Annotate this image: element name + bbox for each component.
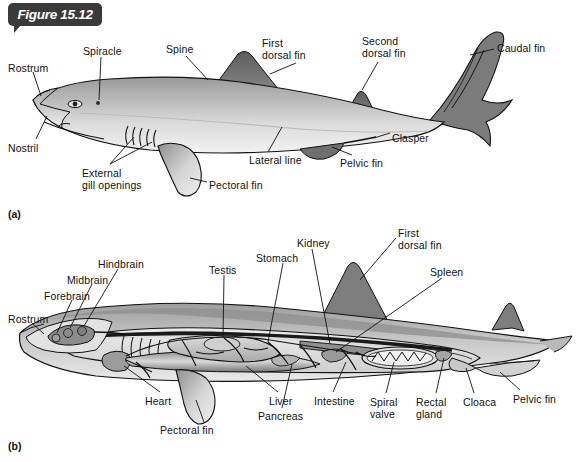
- midbrain-shape-b: [64, 329, 73, 338]
- label-kidney: Kidney: [297, 238, 330, 250]
- leader-rostrum-a: [33, 72, 41, 96]
- label-pelvic-fin: Pelvic fin: [340, 158, 383, 170]
- shark-anatomy-artwork: [0, 0, 576, 462]
- label-rostrum: Rostrum: [8, 63, 48, 75]
- figure-container: Figure 15.12 RostrumSpiracleSpineFirst d…: [0, 0, 576, 462]
- pupil-shape-a: [73, 102, 78, 107]
- label-lateral-line: Lateral line: [249, 155, 302, 167]
- label-pectoral-fin-b: Pectoral fin: [160, 425, 214, 437]
- label-hindbrain: Hindbrain: [98, 259, 144, 271]
- label-first-dorsal-b: First dorsal fin: [398, 228, 442, 251]
- label-heart: Heart: [145, 396, 171, 408]
- label-second-dorsal: Second dorsal fin: [362, 36, 406, 59]
- second-dorsal-fin-shape-b: [492, 303, 524, 331]
- label-rectal-gland: Rectal gland: [416, 397, 446, 420]
- label-spleen: Spleen: [430, 267, 463, 279]
- figure-number-tag: Figure 15.12: [8, 3, 102, 26]
- label-clasper: Clasper: [392, 133, 429, 145]
- label-spiracle: Spiracle: [83, 46, 122, 58]
- label-pelvic-fin-b: Pelvic fin: [513, 394, 556, 406]
- label-caudal-fin: Caudal fin: [497, 43, 545, 55]
- label-rostrum-b: Rostrum: [8, 314, 48, 326]
- label-spine: Spine: [166, 44, 193, 56]
- figure-tag-tail: [14, 25, 21, 33]
- leader-first-dorsal-b: [360, 238, 396, 280]
- label-nostril: Nostril: [8, 143, 38, 155]
- label-pectoral-fin: Pectoral fin: [209, 180, 263, 192]
- spiral-valve-inner: [367, 350, 433, 366]
- leader-first-dorsal-a: [270, 63, 296, 74]
- testis-shape-b: [204, 337, 240, 351]
- leader-second-dorsal-a: [362, 62, 378, 90]
- label-gill-openings: External gill openings: [82, 168, 142, 191]
- label-pancreas: Pancreas: [258, 411, 303, 423]
- label-liver: Liver: [269, 396, 292, 408]
- leader-nostril-a: [36, 116, 47, 139]
- forebrain-shape-b: [52, 334, 60, 342]
- label-testis: Testis: [209, 265, 236, 277]
- label-stomach: Stomach: [256, 253, 298, 265]
- label-forebrain: Forebrain: [44, 291, 90, 303]
- hindbrain-shape-b: [78, 327, 87, 336]
- shark-body-shape-a: [33, 77, 444, 153]
- label-midbrain: Midbrain: [67, 275, 108, 287]
- panel-b-id: (b): [8, 440, 21, 452]
- label-cloaca: Cloaca: [463, 397, 496, 409]
- label-first-dorsal: First dorsal fin: [262, 38, 306, 61]
- leader-spine-a: [186, 56, 208, 80]
- leader-cloaca-b: [466, 368, 474, 393]
- label-intestine: Intestine: [314, 396, 355, 408]
- spiracle-shape-a: [96, 101, 100, 105]
- panel-a-id: (a): [8, 208, 21, 220]
- label-spiral-valve: Spiral valve: [370, 397, 397, 420]
